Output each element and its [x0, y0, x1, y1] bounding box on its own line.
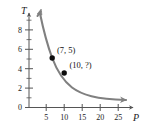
- y-tick-label-2: 2: [18, 84, 22, 93]
- x-tick-label-5: 5: [44, 113, 48, 122]
- label-point-10-unknown: (10, ?): [70, 60, 92, 70]
- point-7-5[interactable]: [50, 55, 55, 60]
- point-10-unknown[interactable]: [61, 70, 66, 75]
- y-axis: 0 2 4 6 8 T: [18, 5, 33, 112]
- x-axis: 5 10 15 20 25 P: [29, 104, 139, 123]
- y-tick-label-8: 8: [18, 26, 22, 35]
- y-tick-label-0: 0: [18, 103, 22, 112]
- curve-start-arrowhead: [37, 9, 42, 15]
- y-tick-label-6: 6: [18, 45, 22, 54]
- inverse-variation-curve: [37, 9, 126, 100]
- x-axis-label: P: [132, 112, 139, 123]
- x-tick-label-20: 20: [96, 113, 104, 122]
- plot-area: 0 2 4 6 8 T 5 10 15 20 25 P: [0, 0, 158, 131]
- x-tick-label-10: 10: [60, 113, 68, 122]
- label-point-7-5: (7, 5): [57, 45, 76, 55]
- x-tick-label-25: 25: [114, 113, 122, 122]
- point-labels: (7, 5) (10, ?): [57, 45, 92, 71]
- x-tick-label-15: 15: [78, 113, 86, 122]
- y-axis-label: T: [21, 5, 28, 16]
- inverse-variation-graph-figure: 0 2 4 6 8 T 5 10 15 20 25 P: [0, 0, 158, 131]
- y-tick-label-4: 4: [18, 65, 22, 74]
